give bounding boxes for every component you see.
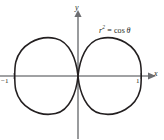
equation-theta: θ (127, 26, 131, 35)
tick-label-negative-one: −1 (1, 78, 8, 85)
curve-equation-label: r2 = cos θ (99, 25, 131, 35)
plot-canvas (0, 0, 164, 140)
equation-equals: = (105, 26, 114, 35)
equation-cosine: cos (114, 26, 127, 35)
axis-label-y: y (75, 4, 79, 12)
polar-curve-figure: y x −1 1 r2 = cos θ (0, 0, 164, 140)
axis-label-x: x (154, 70, 158, 78)
tick-label-one: 1 (136, 78, 140, 85)
